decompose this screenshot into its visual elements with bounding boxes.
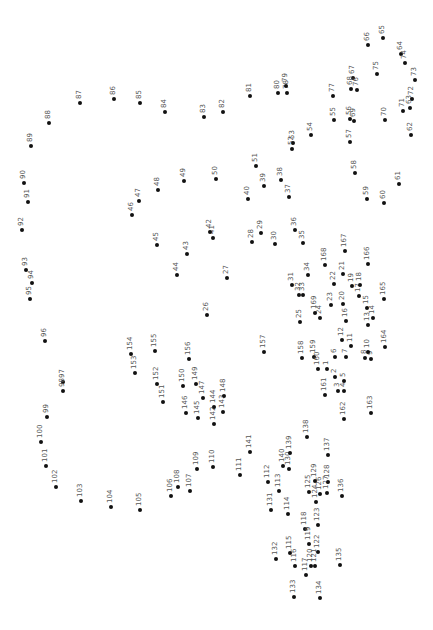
dot-121 [313, 564, 317, 568]
dot-2 [333, 375, 337, 379]
dot-20 [341, 302, 345, 306]
dot-label: 154 [127, 337, 134, 350]
dot-label: 25 [296, 309, 303, 318]
dot-157 [262, 350, 266, 354]
dot-label: 77 [329, 83, 336, 92]
dot-36 [293, 228, 297, 232]
dot-113 [277, 489, 281, 493]
dot-label: 23 [327, 292, 334, 301]
dot-label: 113 [275, 474, 282, 487]
dot-165 [382, 297, 386, 301]
dot-label: 160 [314, 352, 321, 365]
dot-130 [287, 467, 291, 471]
dot-129 [313, 479, 317, 483]
dot-label: 101 [42, 449, 49, 462]
dot-168 [323, 263, 327, 267]
dot-label: 96 [41, 328, 48, 337]
dot-71 [401, 109, 405, 113]
dot-label: 163 [367, 396, 374, 409]
dot-label: 85 [136, 90, 143, 99]
dot-label: 58 [351, 160, 358, 169]
dot-label: 155 [151, 334, 158, 347]
dot-58 [353, 171, 357, 175]
dot-131 [269, 508, 273, 512]
dot-label: 90 [20, 170, 27, 179]
dot-label: 88 [45, 110, 52, 119]
dot-label: 107 [186, 474, 193, 487]
dot-label: 45 [153, 232, 160, 241]
dot-label: 129 [311, 464, 318, 477]
dot-label: 112 [264, 465, 271, 478]
dot-117 [304, 573, 308, 577]
dot-100 [39, 440, 43, 444]
dot-156 [187, 357, 191, 361]
dot-label: 38 [277, 167, 284, 176]
dot-label: 148 [220, 379, 227, 392]
dot-34 [306, 273, 310, 277]
dot-26 [205, 313, 209, 317]
dot-label: 76 [353, 77, 360, 86]
dot-label: 166 [364, 247, 371, 260]
dot-112 [266, 480, 270, 484]
dot-label: 16 [342, 308, 349, 317]
dot-label: 44 [173, 262, 180, 271]
dot-label: 165 [380, 282, 387, 295]
dot-label: 79 [282, 73, 289, 82]
dot-146 [184, 411, 188, 415]
dot-label: 141 [246, 435, 253, 448]
dot-label: 86 [110, 86, 117, 95]
dot-145 [196, 416, 200, 420]
dot-137 [326, 453, 330, 457]
dot-label: 35 [299, 230, 306, 239]
dot-label: 149 [192, 367, 199, 380]
dot-label: 18 [356, 272, 363, 281]
dot-74 [403, 61, 407, 65]
dot-label: 57 [346, 129, 353, 138]
dot-161 [323, 393, 327, 397]
dot-label: 138 [303, 420, 310, 433]
dot-99 [45, 415, 49, 419]
dot-94 [30, 281, 34, 285]
dot-label: 114 [284, 497, 291, 510]
dot-133 [292, 595, 296, 599]
dot-label: 93 [22, 257, 29, 266]
dot-label: 4 [340, 383, 347, 387]
dot-143 [221, 410, 225, 414]
dot-label: 22 [330, 271, 337, 280]
dot-98 [61, 389, 65, 393]
dot-19 [350, 284, 354, 288]
dot-label: 36 [291, 217, 298, 226]
dot-label: 12 [338, 327, 345, 336]
dot-label: 14 [369, 305, 376, 314]
dot-79 [284, 84, 288, 88]
dot-40 [246, 197, 250, 201]
dot-49 [182, 179, 186, 183]
dot-90 [22, 181, 26, 185]
dot-78 [285, 91, 289, 95]
dot-101 [44, 464, 48, 468]
dot-76 [355, 88, 359, 92]
dot-label: 118 [301, 512, 308, 525]
dot-label: 100 [37, 425, 44, 438]
dot-139 [288, 451, 292, 455]
dot-label: 89 [27, 133, 34, 142]
dot-label: 73 [411, 67, 418, 76]
dot-label: 64 [397, 41, 404, 50]
dot-label: 140 [279, 449, 286, 462]
dot-label: 72 [408, 86, 415, 95]
dot-57 [348, 140, 352, 144]
dot-label: 42 [206, 219, 213, 228]
dot-132 [274, 557, 278, 561]
dot-52 [290, 147, 294, 151]
dot-label: 80 [274, 80, 281, 89]
dot-109 [195, 467, 199, 471]
dot-12 [340, 338, 344, 342]
dot-label: 137 [324, 438, 331, 451]
dot-141 [248, 450, 252, 454]
dot-41 [211, 236, 215, 240]
dot-label: 95 [26, 286, 33, 295]
dot-label: 144 [210, 390, 217, 403]
dot-134 [318, 596, 322, 600]
dot-label: 59 [363, 186, 370, 195]
dot-label: 48 [154, 177, 161, 186]
